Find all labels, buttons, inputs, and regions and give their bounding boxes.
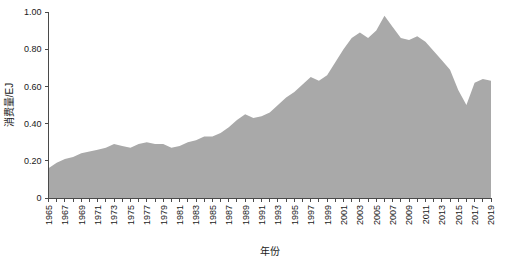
x-tick-label: 1985	[208, 205, 218, 225]
x-tick-label: 1993	[273, 205, 283, 225]
x-tick-label: 2019	[486, 205, 496, 225]
x-tick-label: 1999	[323, 205, 333, 225]
x-tick-label: 1967	[60, 205, 70, 225]
chart-container: 1.000.800.600.400.200 196519671969197119…	[0, 0, 509, 263]
x-tick-label: 1997	[306, 205, 316, 225]
y-axis-title: 消费量/EJ	[3, 83, 15, 127]
x-axis-title: 年份	[260, 245, 280, 257]
x-tick-label: 1969	[77, 205, 87, 225]
plot-area	[49, 16, 492, 198]
x-tick-label: 1979	[159, 205, 169, 225]
x-tick-label: 2013	[437, 205, 447, 225]
x-tick-label: 1977	[142, 205, 152, 225]
x-tick-label: 2017	[470, 205, 480, 225]
x-tick-label: 2005	[372, 205, 382, 225]
x-tick-label: 1991	[257, 205, 267, 225]
y-tick-label: 0.20	[24, 156, 42, 166]
x-tick-label: 2009	[404, 205, 414, 225]
y-tick-label: 0.60	[24, 82, 42, 92]
x-tick-label: 1965	[44, 205, 54, 225]
x-tick-label: 1989	[241, 205, 251, 225]
x-tick-label: 1981	[175, 205, 185, 225]
x-tick-label: 1995	[290, 205, 300, 225]
x-tick-label: 1983	[191, 205, 201, 225]
area-series	[49, 16, 492, 198]
y-tick-label: 0.40	[24, 119, 42, 129]
x-tick-label: 2015	[454, 205, 464, 225]
x-tick-label: 2011	[421, 205, 431, 224]
x-tick-label: 2007	[388, 205, 398, 225]
y-tick-label: 1.00	[24, 7, 42, 17]
x-tick-label: 2003	[355, 205, 365, 225]
x-tick-label: 2001	[339, 205, 349, 225]
x-tick-labels: 1965196719691971197319751977197919811983…	[44, 205, 497, 225]
y-tick-label: 0	[36, 193, 41, 203]
x-tick-label: 1987	[224, 205, 234, 225]
energy-consumption-area-chart: 1.000.800.600.400.200 196519671969197119…	[0, 0, 509, 263]
x-tick-label: 1973	[109, 205, 119, 225]
x-tick-label: 1975	[126, 205, 136, 225]
x-tick-label: 1971	[93, 205, 103, 225]
y-tick-labels: 1.000.800.600.400.200	[24, 7, 42, 203]
y-tick-label: 0.80	[24, 44, 42, 54]
